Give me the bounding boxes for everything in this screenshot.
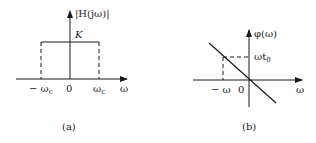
b-y-label: φ(ω) bbox=[254, 28, 277, 39]
a-tick-origin: 0 bbox=[66, 83, 72, 94]
b-tick-origin: 0 bbox=[238, 84, 244, 95]
a-x-label: ω bbox=[120, 83, 128, 94]
a-y-label: |H(jω)| bbox=[75, 8, 110, 20]
b-tick-neg-omega: − ω bbox=[211, 84, 231, 95]
a-level-k: K bbox=[74, 29, 83, 40]
b-caption: (b) bbox=[242, 121, 256, 132]
figure-a-magnitude-plot: |H(jω)| K − ωc 0 ωc ω (a) bbox=[16, 8, 128, 132]
figure-b-phase-plot: φ(ω) ωt0 − ω 0 ω (b) bbox=[193, 28, 304, 132]
a-caption: (a) bbox=[62, 121, 76, 132]
figure-canvas: |H(jω)| K − ωc 0 ωc ω (a) φ(ω) ωt0 − ω 0… bbox=[0, 0, 316, 143]
a-tick-pos-cutoff: ωc bbox=[93, 83, 105, 96]
a-tick-neg-cutoff: − ωc bbox=[29, 83, 53, 96]
diagram-svg: |H(jω)| K − ωc 0 ωc ω (a) φ(ω) ωt0 − ω 0… bbox=[0, 0, 316, 143]
b-level-label: ωt0 bbox=[254, 51, 271, 64]
b-x-label: ω bbox=[296, 84, 304, 95]
